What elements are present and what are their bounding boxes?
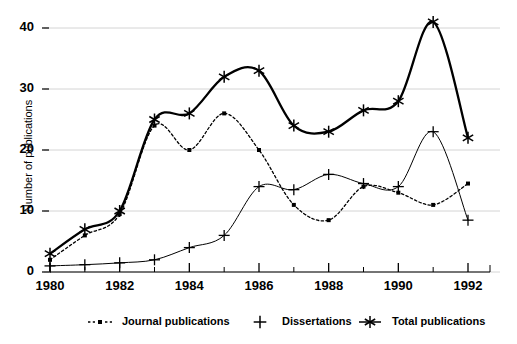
- series-dissertations: [45, 126, 474, 271]
- y-tick-30: 30: [0, 80, 34, 95]
- legend-label-dissertations: Dissertations: [282, 315, 352, 327]
- y-tick-40: 40: [0, 19, 34, 34]
- x-tick-1992: 1992: [442, 278, 494, 293]
- series-layer: [45, 16, 474, 272]
- series-total-publications: [45, 16, 473, 260]
- y-tick-0: 0: [0, 263, 34, 278]
- legend-label-total-publications: Total publications: [392, 315, 485, 327]
- x-tick-1988: 1988: [303, 278, 355, 293]
- y-tick-10: 10: [0, 202, 34, 217]
- publications-line-chart: Number of publications 010203040 1980198…: [0, 0, 517, 344]
- gridlines: [44, 28, 500, 272]
- x-tick-1986: 1986: [233, 278, 285, 293]
- x-tick-1982: 1982: [94, 278, 146, 293]
- x-tick-1980: 1980: [24, 278, 76, 293]
- x-tick-1984: 1984: [163, 278, 215, 293]
- x-tick-1990: 1990: [372, 278, 424, 293]
- axes: [42, 28, 490, 273]
- y-tick-20: 20: [0, 141, 34, 156]
- legend-label-journal-publications: Journal publications: [122, 315, 230, 327]
